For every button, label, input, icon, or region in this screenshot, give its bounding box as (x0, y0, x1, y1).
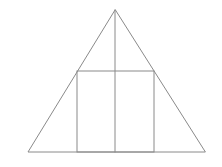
diagram-canvas (0, 0, 222, 167)
geometry-figure (0, 0, 222, 167)
triangle (28, 10, 205, 152)
